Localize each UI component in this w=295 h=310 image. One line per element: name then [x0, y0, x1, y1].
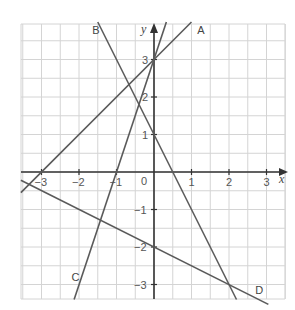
grid: [21, 24, 285, 299]
line-label-d: D: [255, 284, 263, 296]
origin-label: 0: [141, 175, 147, 187]
y-tick-label: −2: [134, 241, 147, 253]
y-axis-label: y: [140, 22, 147, 36]
x-tick-label: −3: [35, 176, 48, 188]
line-c: [74, 22, 166, 300]
y-tick-label: 2: [142, 91, 148, 103]
x-axis-label: x: [278, 172, 285, 186]
line-a: [21, 22, 192, 193]
line-label-a: A: [197, 24, 205, 36]
line-label-c: C: [72, 271, 80, 283]
y-tick-label: −1: [134, 204, 147, 216]
y-tick-label: 1: [142, 129, 148, 141]
line-graph: −3−2−1123−3−2−1123 x y 0 ABCD: [0, 0, 295, 310]
x-tick-label: −2: [72, 176, 85, 188]
line-b: [98, 22, 237, 300]
line-label-b: B: [92, 24, 99, 36]
y-tick-label: −3: [134, 279, 147, 291]
x-tick-label: −1: [110, 176, 123, 188]
x-tick-label: 2: [226, 176, 232, 188]
x-tick-label: 3: [264, 176, 270, 188]
x-tick-label: 1: [189, 176, 195, 188]
y-tick-label: 3: [142, 54, 148, 66]
